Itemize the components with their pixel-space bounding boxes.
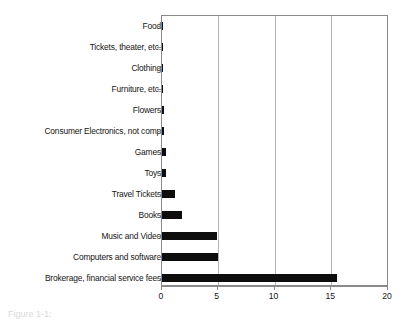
x-tick — [274, 286, 275, 290]
category-label: Consumer Electronics, not comp — [44, 122, 161, 141]
x-axis-line — [161, 286, 388, 287]
category-label: Travel Tickets — [112, 185, 161, 204]
chart-row: Furniture, etc. — [0, 80, 407, 99]
category-label: Music and Video — [101, 227, 161, 246]
y-tick-mark — [157, 89, 161, 90]
bar-consumer-electronics — [162, 127, 164, 135]
y-tick-mark — [157, 68, 161, 69]
x-tick — [161, 286, 162, 290]
bar-clothing — [162, 64, 163, 72]
x-tick-label-15: 15 — [325, 291, 335, 301]
y-tick-mark — [157, 236, 161, 237]
bar-food — [162, 22, 163, 30]
chart-row: Computers and software — [0, 248, 407, 267]
bar-toys — [162, 169, 166, 177]
chart-row: Consumer Electronics, not comp — [0, 122, 407, 141]
chart-row: Travel Tickets — [0, 185, 407, 204]
chart-row: Music and Video — [0, 227, 407, 246]
chart-row: Toys — [0, 164, 407, 183]
bar-flowers — [162, 106, 164, 114]
y-tick-mark — [157, 257, 161, 258]
figure-caption: Figure 1-1: — [8, 309, 52, 320]
y-tick-mark — [157, 26, 161, 27]
y-tick-mark — [157, 47, 161, 48]
bar-books — [162, 211, 182, 219]
bar-brokerage-financial-service-fees — [162, 274, 337, 282]
chart-row: Clothing — [0, 59, 407, 78]
chart-row: Tickets, theater, etc. — [0, 38, 407, 57]
bar-music-and-video — [162, 232, 217, 240]
category-label: Tickets, theater, etc. — [90, 38, 161, 57]
bar-tickets-theater — [162, 43, 163, 51]
y-tick-mark — [157, 152, 161, 153]
x-axis: 0 5 10 15 20 — [161, 286, 388, 312]
x-tick — [330, 286, 331, 290]
x-tick-label-20: 20 — [382, 291, 392, 301]
x-tick — [387, 286, 388, 290]
y-tick-mark — [157, 131, 161, 132]
category-label: Brokerage, financial service fees — [45, 269, 161, 288]
chart-row: Flowers — [0, 101, 407, 120]
bar-games — [162, 148, 166, 156]
y-tick-mark — [157, 173, 161, 174]
x-tick-label-5: 5 — [214, 291, 219, 301]
y-tick-mark — [157, 278, 161, 279]
bar-travel-tickets — [162, 190, 175, 198]
category-label: Furniture, etc. — [112, 80, 161, 99]
x-tick — [217, 286, 218, 290]
bar-furniture — [162, 85, 163, 93]
bar-computers-and-software — [162, 253, 218, 261]
bar-chart-figure: Food Tickets, theater, etc. Clothing Fur… — [0, 0, 407, 320]
y-tick-mark — [157, 194, 161, 195]
x-tick-label-10: 10 — [269, 291, 279, 301]
chart-rows: Food Tickets, theater, etc. Clothing Fur… — [0, 15, 407, 286]
chart-row: Games — [0, 143, 407, 162]
y-tick-mark — [157, 215, 161, 216]
x-tick-label-0: 0 — [159, 291, 164, 301]
chart-row: Books — [0, 206, 407, 225]
y-tick-mark — [157, 110, 161, 111]
category-label: Computers and software — [73, 248, 161, 267]
chart-row: Food — [0, 17, 407, 36]
